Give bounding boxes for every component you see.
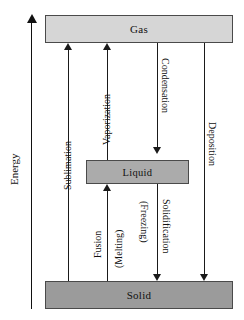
condensation-arrowhead-icon — [153, 147, 161, 154]
solidification-label: Solidification — [161, 199, 172, 253]
deposition-arrowhead-icon — [200, 274, 208, 281]
solidification-shaft — [157, 184, 158, 274]
phase-label-gas: Gas — [130, 23, 148, 35]
condensation-shaft — [157, 43, 158, 147]
energy-axis-label: Energy — [8, 153, 20, 185]
fusion-shaft — [107, 190, 108, 281]
melting-label: (Melting) — [113, 230, 124, 268]
condensation-label: Condensation — [160, 58, 171, 113]
fusion-label: Fusion — [92, 231, 103, 258]
phase-box-liquid: Liquid — [86, 160, 189, 184]
freezing-label: (Freezing) — [139, 201, 150, 243]
phase-box-solid: Solid — [45, 281, 233, 309]
deposition-label: Deposition — [207, 122, 218, 166]
sublimation-label: Sublimation — [62, 141, 73, 190]
phase-label-liquid: Liquid — [123, 167, 153, 178]
solidification-arrowhead-icon — [153, 274, 161, 281]
phase-change-diagram: Energy Sublimation Vaporization Condensa… — [0, 0, 244, 320]
energy-axis-shaft — [31, 22, 32, 309]
phase-label-solid: Solid — [127, 289, 152, 301]
deposition-shaft — [204, 43, 205, 274]
vaporization-label: Vaporization — [101, 94, 112, 145]
phase-box-gas: Gas — [45, 15, 233, 43]
